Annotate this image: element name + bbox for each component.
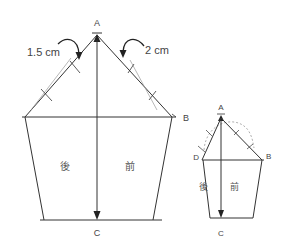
large-left-side: [25, 117, 44, 220]
pattern-diagram: A B C 後 前 1.5 cm 2 cm: [0, 0, 288, 246]
small-diagram: A D B C 後 前: [193, 103, 271, 238]
small-label-back: 後: [199, 181, 208, 192]
large-diagram: A B C 後 前 1.5 cm 2 cm: [22, 18, 189, 238]
small-label-a: A: [218, 103, 224, 112]
large-left-offset-label: 1.5 cm: [27, 46, 60, 58]
large-right-offset-label: 2 cm: [145, 44, 169, 56]
small-label-d: D: [193, 153, 199, 162]
small-label-c: C: [218, 229, 224, 238]
large-label-back: 後: [60, 160, 70, 172]
small-right-side: [253, 160, 262, 218]
large-left-tick-upper: [70, 61, 80, 73]
large-label-front: 前: [125, 160, 135, 172]
large-right-side: [153, 117, 172, 220]
large-left-curved-arrow: [58, 39, 79, 54]
large-label-c: C: [94, 228, 101, 238]
large-label-a: A: [94, 18, 100, 28]
small-left-shoulder-line: [202, 118, 221, 160]
large-left-guide-line: [31, 58, 71, 110]
large-right-guide-line: [130, 60, 157, 110]
small-label-front: 前: [230, 181, 239, 192]
large-label-b: B: [183, 113, 189, 123]
small-label-b: B: [266, 152, 271, 161]
large-center-arrowhead: [94, 211, 101, 220]
small-center-arrowhead: [218, 210, 224, 218]
large-right-curved-arrowhead: [120, 50, 127, 58]
